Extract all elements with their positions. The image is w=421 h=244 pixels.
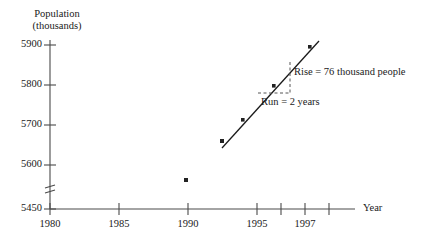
y-axis-title: Population (thousands) [14, 8, 100, 32]
x-tick-label-1985: 1985 [99, 218, 139, 229]
x-tick-label-1980: 1980 [30, 218, 70, 229]
y-tick-label-5600: 5600 [0, 158, 42, 169]
x-tick-label-1995: 1995 [237, 218, 277, 229]
x-axis-title: Year [363, 202, 382, 213]
data-point [184, 178, 188, 182]
y-axis-title-line2: (thousands) [14, 20, 100, 32]
data-points [184, 45, 312, 182]
x-tick-label-1990: 1990 [168, 218, 208, 229]
x-tick-label-1997: 1997 [285, 218, 325, 229]
rise-annotation-label: Rise = 76 thousand people [294, 66, 406, 77]
y-tick-label-5450: 5450 [0, 202, 42, 213]
run-annotation-label: Run = 2 years [261, 96, 320, 107]
chart-canvas [0, 0, 421, 244]
data-point [241, 118, 245, 122]
y-tick-label-5900: 5900 [0, 38, 42, 49]
data-point [272, 84, 276, 88]
y-tick-label-5800: 5800 [0, 78, 42, 89]
y-tick-label-5700: 5700 [0, 118, 42, 129]
y-axis-title-line1: Population [14, 8, 100, 20]
population-scatter-chart: Population (thousands) 5900 5800 5700 56… [0, 0, 421, 244]
data-point [308, 45, 312, 49]
data-point [220, 139, 224, 143]
trend-line [222, 41, 319, 148]
